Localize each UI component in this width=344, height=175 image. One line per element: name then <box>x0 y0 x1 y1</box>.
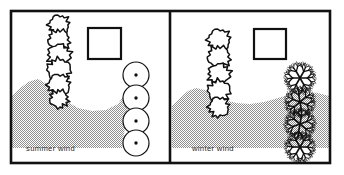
building-footprint-winter <box>254 29 286 59</box>
building-footprint-summer <box>88 28 121 59</box>
branch <box>288 146 292 147</box>
caption-winter-wind: winter wind <box>191 144 234 153</box>
wind-deflection-diagram: summer wind winter wind <box>0 0 344 175</box>
branch <box>288 78 292 79</box>
branch <box>307 147 311 148</box>
evergreen-tree-column-winter <box>205 29 232 118</box>
canopy-trunk-dot <box>134 141 137 144</box>
diagram-canvas: summer wind winter wind <box>0 0 344 175</box>
canopy-trunk-dot <box>134 73 137 76</box>
branch <box>307 77 311 78</box>
caption-summer-wind: summer wind <box>26 144 75 153</box>
canopy-trunk-dot <box>134 119 137 122</box>
canopy-trunk-dot <box>134 96 137 99</box>
